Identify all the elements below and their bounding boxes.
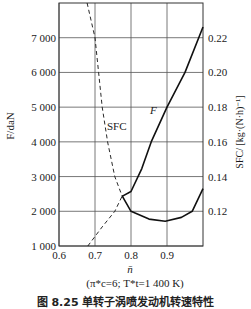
y-left-tick-label: 2 000: [31, 205, 56, 217]
tick-labels: 0.60.70.80.91 0002 0003 0004 0005 0006 0…: [31, 32, 228, 261]
y-right-tick-label: 0.12: [208, 205, 227, 217]
curves: [87, 3, 203, 246]
y-left-tick-label: 1 000: [31, 240, 56, 252]
y-right-tick-label: 0.20: [208, 66, 228, 78]
y-right-tick-label: 0.14: [208, 171, 228, 183]
y-left-axis-label: F/daN: [4, 112, 16, 140]
x-tick-label: 0.8: [124, 249, 138, 261]
y-left-tick-label: 5 000: [31, 101, 56, 113]
grid-lines: [59, 3, 203, 246]
y-right-tick-label: 0.16: [208, 136, 228, 148]
y-left-tick-label: 3 000: [31, 171, 56, 183]
y-left-tick-label: 4 000: [31, 136, 56, 148]
series-label-sfc: SFC: [107, 120, 127, 132]
x-tick-label: 0.7: [88, 249, 102, 261]
y-left-tick-label: 6 000: [31, 66, 56, 78]
sfc-curve-dashed: [87, 3, 122, 196]
sfc-curve-solid: [122, 189, 203, 222]
x-axis-label: n̄: [127, 263, 133, 275]
conditions-subtitle: (π*c=6; T*t=1 400 K): [86, 277, 184, 290]
x-tick-label: 0.9: [160, 249, 174, 261]
y-right-tick-label: 0.22: [208, 32, 227, 44]
thrust-curve-solid: [122, 27, 203, 196]
y-left-tick-label: 7 000: [31, 32, 56, 44]
figure-caption: 图 8.25 单转子涡喷发动机转速特性: [0, 293, 251, 309]
thrust-curve-dashed: [88, 196, 122, 246]
series-label-f: F: [149, 104, 157, 116]
y-right-tick-label: 0.18: [208, 101, 228, 113]
y-right-axis-label: SFC/ [kg·(N·h)⁻¹]: [234, 95, 246, 168]
